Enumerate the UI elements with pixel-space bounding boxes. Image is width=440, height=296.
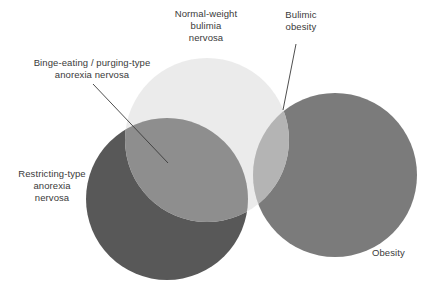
- venn-diagram-figure: Normal-weight bulimia nervosa Bulimic ob…: [0, 0, 440, 296]
- label-bulimic-obesity: Bulimic obesity: [266, 9, 336, 33]
- label-binge-eating-purging-type-anorexia-nervosa: Binge-eating / purging-type anorexia ner…: [12, 57, 172, 81]
- label-obesity: Obesity: [372, 247, 432, 259]
- label-normal-weight-bulimia-nervosa: Normal-weight bulimia nervosa: [150, 8, 262, 45]
- leader-line-bulimic-obesity: [283, 44, 296, 110]
- label-restricting-type-anorexia-nervosa: Restricting-type anorexia nervosa: [4, 168, 100, 205]
